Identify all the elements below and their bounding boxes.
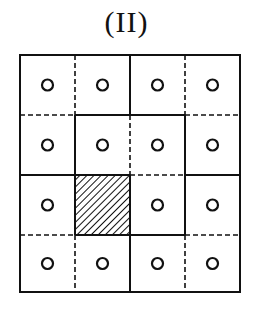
circle-icon bbox=[152, 140, 163, 151]
circle-icon bbox=[42, 140, 53, 151]
circle-icon bbox=[152, 258, 163, 269]
circle-icon bbox=[207, 140, 218, 151]
hatched-cell bbox=[75, 175, 130, 235]
circle-icon bbox=[152, 80, 163, 91]
circle-icon bbox=[42, 200, 53, 211]
circle-icon bbox=[97, 140, 108, 151]
circle-icon bbox=[42, 80, 53, 91]
circle-icon bbox=[97, 80, 108, 91]
circle-icon bbox=[207, 258, 218, 269]
circle-icon bbox=[152, 200, 163, 211]
circle-icon bbox=[207, 200, 218, 211]
circle-icon bbox=[97, 258, 108, 269]
circle-icon bbox=[42, 258, 53, 269]
circle-icon bbox=[207, 80, 218, 91]
edges-layer bbox=[20, 55, 240, 292]
grid-diagram bbox=[0, 0, 253, 316]
